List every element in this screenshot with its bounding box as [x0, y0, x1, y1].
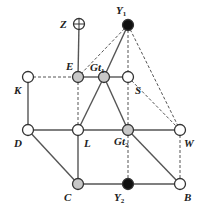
node-label-c: C	[64, 191, 72, 203]
node-circle	[23, 125, 34, 136]
edge-gt2-b	[128, 130, 180, 184]
node-label-y1: Y1	[116, 4, 127, 18]
node-label-gt2: Gt2	[114, 135, 129, 149]
node-circle	[23, 72, 34, 83]
node-circle	[73, 125, 84, 136]
node-label-b: B	[183, 191, 191, 203]
node-circle	[175, 179, 186, 190]
node-label-e: E	[65, 60, 73, 72]
node-c	[73, 179, 84, 190]
node-s	[123, 72, 134, 83]
node-label-d: D	[13, 137, 22, 149]
node-circle	[123, 20, 134, 31]
node-circle	[73, 179, 84, 190]
node-label-gt1: Gt1	[90, 61, 105, 75]
node-label-y2: Y2	[114, 191, 125, 205]
node-y2	[123, 179, 134, 190]
node-circle	[123, 125, 134, 136]
node-label-k: K	[13, 84, 22, 96]
node-label-s: S	[135, 84, 141, 96]
edge-gt1-l	[78, 77, 104, 130]
node-label-l: L	[83, 137, 91, 149]
graph-diagram: ZY1EGt1SKDLGt2WCY2B	[0, 0, 217, 213]
edge-y1-w	[128, 25, 180, 130]
labels-layer: ZY1EGt1SKDLGt2WCY2B	[13, 4, 195, 205]
node-b	[175, 179, 186, 190]
node-circle	[123, 72, 134, 83]
node-circle	[73, 72, 84, 83]
edge-gt1-gt2	[104, 77, 128, 130]
node-label-w: W	[184, 137, 195, 149]
node-circle	[175, 125, 186, 136]
node-circle	[123, 179, 134, 190]
node-y1	[123, 20, 134, 31]
edge-z-e	[78, 24, 79, 77]
node-d	[23, 125, 34, 136]
edge-y1-gt1	[104, 25, 128, 77]
edge-d-c	[28, 130, 78, 184]
node-l	[73, 125, 84, 136]
edges-layer	[28, 24, 180, 184]
node-e	[73, 72, 84, 83]
node-w	[175, 125, 186, 136]
node-z	[74, 19, 85, 30]
node-label-z: Z	[59, 18, 67, 30]
node-k	[23, 72, 34, 83]
node-gt2	[123, 125, 134, 136]
